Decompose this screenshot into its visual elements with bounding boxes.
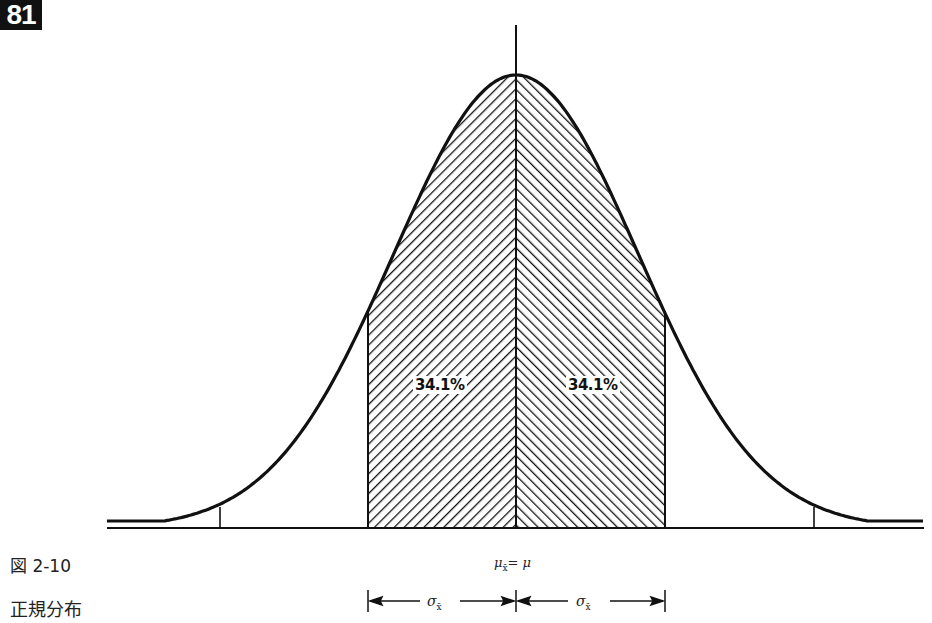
sigma-left-subscript: x̄ bbox=[437, 602, 442, 612]
mean-label-equals: = μ bbox=[508, 555, 531, 570]
left-area-percent-label: 34.1% bbox=[413, 376, 467, 394]
sigma-right-subscript: x̄ bbox=[586, 602, 591, 612]
mean-label: μx̄= μ bbox=[494, 555, 531, 573]
shaded-area-right bbox=[516, 75, 664, 528]
sigma-left-label: σx̄ bbox=[423, 593, 446, 612]
figure-number: 図 2-10 bbox=[10, 552, 71, 577]
right-area-percent-label: 34.1% bbox=[566, 376, 620, 394]
shaded-area-left bbox=[368, 75, 516, 528]
normal-distribution-chart bbox=[0, 0, 932, 623]
sigma-right-label: σx̄ bbox=[572, 593, 595, 612]
sigma-right-symbol: σ bbox=[576, 593, 586, 609]
sigma-bracket bbox=[368, 590, 665, 612]
figure-title: 正規分布 bbox=[10, 595, 82, 621]
sigma-left-symbol: σ bbox=[427, 593, 437, 609]
